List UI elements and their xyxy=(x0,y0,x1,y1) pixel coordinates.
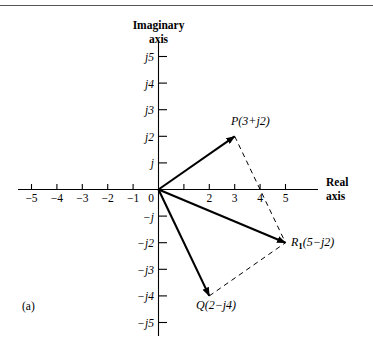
real-axis-title-line1: Real xyxy=(326,176,348,188)
point-label-q-text: Q(2−j4) xyxy=(196,298,236,312)
imaginary-axis-title-line2: axis xyxy=(149,33,169,45)
figure-caption: (a) xyxy=(22,300,35,313)
argand-diagram-svg: −5 −4 −3 −2 −1 0 2 3 4 5 j5 j4 j3 j2 j −… xyxy=(0,0,373,344)
point-label-p: P(3+j2) xyxy=(230,114,270,128)
x-tick-label--4: −4 xyxy=(51,192,63,204)
x-tick-label-3: 3 xyxy=(232,192,238,204)
y-tick-label-j3: j3 xyxy=(143,104,154,117)
point-label-p-text: P(3+j2) xyxy=(230,114,270,128)
point-label-r1-rest: (5−j2) xyxy=(303,235,334,249)
x-tick-label--1: −1 xyxy=(127,192,139,204)
x-tick-label--2: −2 xyxy=(102,192,114,204)
point-label-r1: R1(5−j2) xyxy=(290,235,334,251)
y-tick-label-j4: j4 xyxy=(143,78,154,91)
x-tick-label--3: −3 xyxy=(76,192,88,204)
y-tick-label--j4: −j4 xyxy=(137,290,154,303)
y-tick-label--j2: −j2 xyxy=(137,237,154,250)
real-axis-title-line2: axis xyxy=(326,190,346,202)
y-tick-label--j1: −j xyxy=(143,211,154,224)
y-tick-label--j5: −j5 xyxy=(137,317,154,330)
real-axis-tick-labels: −5 −4 −3 −2 −1 0 2 3 4 5 xyxy=(25,192,288,204)
vector-p xyxy=(159,136,235,189)
dashed-line-q-to-r1 xyxy=(209,243,285,296)
y-tick-label--j3: −j3 xyxy=(137,264,154,277)
vectors-group xyxy=(159,136,286,296)
point-label-q: Q(2−j4) xyxy=(196,298,236,312)
complex-plane-figure: −5 −4 −3 −2 −1 0 2 3 4 5 j5 j4 j3 j2 j −… xyxy=(0,0,373,344)
x-tick-label-2: 2 xyxy=(206,192,212,204)
axes-group xyxy=(18,40,318,336)
vector-r1 xyxy=(159,190,286,243)
imaginary-axis-tick-labels: j5 j4 j3 j2 j −j −j2 −j3 −j4 −j5 xyxy=(137,51,154,330)
x-tick-label--5: −5 xyxy=(25,192,37,204)
y-tick-label-j2: j2 xyxy=(143,131,154,144)
x-tick-label-0: 0 xyxy=(148,192,154,204)
axis-titles-group: Imaginary axis Real axis xyxy=(133,19,349,202)
y-tick-label-j5: j5 xyxy=(143,51,154,64)
x-tick-label-5: 5 xyxy=(283,192,289,204)
imaginary-axis-title-line1: Imaginary xyxy=(133,19,185,32)
y-tick-label-j1: j xyxy=(149,157,154,170)
